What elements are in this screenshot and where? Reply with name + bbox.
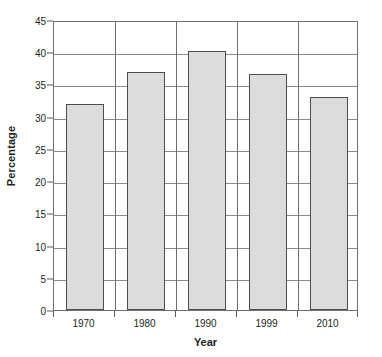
y-axis-tick-label: 40 [22,48,46,59]
bar-slot [298,22,359,310]
y-axis-title-label: Percentage [5,125,17,185]
y-axis-tick-labels: 051015202530354045 [22,21,46,311]
bar[interactable] [249,74,287,311]
x-axis-tick-mark [236,311,237,317]
bar-slot [237,22,298,310]
category-separator [115,22,116,310]
y-axis-tick-label: 10 [22,241,46,252]
bar-chart: Percentage 051015202530354045 1970198019… [0,0,382,357]
x-axis-tick-mark [114,311,115,317]
x-axis-tick-label: 2010 [316,318,338,329]
bar[interactable] [310,97,348,310]
y-axis-tick-label: 25 [22,144,46,155]
y-axis-tick-label: 30 [22,112,46,123]
bar[interactable] [66,104,104,310]
x-axis-tick-label: 1980 [133,318,155,329]
y-axis-tick-label: 45 [22,16,46,27]
y-axis-tick-label: 15 [22,209,46,220]
bar-slot [54,22,115,310]
x-axis-tick-labels: 19701980199019992010 [53,318,358,334]
x-axis-title: Year [53,336,358,348]
category-separator [298,22,299,310]
y-axis-tick-label: 0 [22,306,46,317]
x-axis-tick-mark [175,311,176,317]
y-axis-title: Percentage [0,0,22,311]
y-axis-tick-label: 20 [22,177,46,188]
bar[interactable] [127,72,165,310]
y-axis-tick-label: 5 [22,273,46,284]
bar[interactable] [188,51,226,310]
x-axis-tick-mark [357,311,358,317]
category-separator [237,22,238,310]
plot-area [53,21,358,311]
x-axis-tick-mark [297,311,298,317]
x-axis-tick-label: 1990 [194,318,216,329]
category-separator [176,22,177,310]
y-axis-tick-label: 35 [22,80,46,91]
bar-slot [115,22,176,310]
bar-slot [176,22,237,310]
x-axis-tick-label: 1970 [72,318,94,329]
x-axis-tick-marks [53,311,358,317]
bars-layer [54,22,357,310]
x-axis-tick-label: 1999 [255,318,277,329]
x-axis-tick-mark [53,311,54,317]
